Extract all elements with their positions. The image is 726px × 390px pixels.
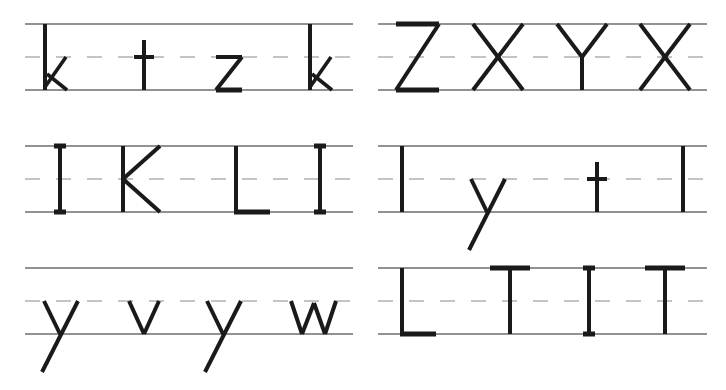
- letter-X-r1-right-3: X: [640, 24, 690, 90]
- guide-lines-r2-right: [378, 146, 707, 212]
- letter-Z-r1-right-0: Z: [396, 24, 439, 90]
- letter-w-r3-left-3: w: [291, 301, 336, 334]
- handwriting-worksheet: ktzkZXYXIKLIlytlyvywLTIT: [0, 0, 726, 390]
- guide-lines-r1-right: [378, 24, 707, 90]
- letter-T-r3-right-1: T: [490, 268, 530, 334]
- guide-lines-r2-left: [25, 146, 353, 212]
- letter-I-r3-right-2: I: [583, 268, 595, 334]
- letter-t-r1-left-1: t: [134, 40, 154, 90]
- letter-v-r3-left-1: v: [129, 301, 159, 334]
- letter-strokes: ktzkZXYXIKLIlytlyvywLTIT: [42, 24, 690, 372]
- letter-T-r3-right-3: T: [645, 268, 685, 334]
- letter-y-r2-right-1: y: [469, 179, 505, 250]
- letter-y-r3-left-0: y: [42, 301, 78, 372]
- letter-t-r2-right-2: t: [587, 162, 607, 212]
- letter-z-r1-left-2: z: [216, 57, 242, 90]
- letter-y-r3-left-2: y: [205, 301, 241, 372]
- guide-lines-r1-left: [25, 24, 353, 90]
- guide-lines-r3-right: [378, 268, 707, 334]
